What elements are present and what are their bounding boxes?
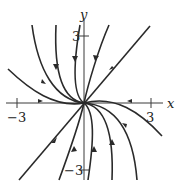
arrow-icon (71, 146, 77, 152)
trajectory (84, 103, 92, 180)
arrow-icon (38, 99, 43, 103)
trajectory (84, 103, 112, 180)
phase-portrait: x y −3 3 3 −3 (0, 0, 183, 188)
x-axis-label: x (167, 96, 175, 111)
arrow-icon (41, 79, 46, 84)
trajectory (84, 25, 109, 103)
x-tick-label-neg3: −3 (7, 110, 26, 125)
arrow-icon (72, 56, 78, 62)
x-tick-label-3: 3 (146, 110, 154, 125)
arrow-icon (127, 99, 132, 103)
y-axis-label: y (79, 7, 88, 22)
y-tick-label-neg3: −3 (64, 163, 83, 178)
